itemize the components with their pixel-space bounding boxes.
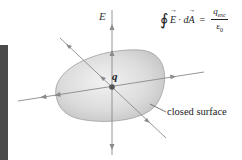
arrow-down-icon [110, 144, 115, 150]
closed-surface-label: closed surface [167, 106, 227, 117]
numerator-subscript: enc [218, 12, 226, 18]
numerator: qenc [211, 6, 228, 20]
vector-A: A [188, 14, 194, 25]
closed-integral-symbol: ∮ [160, 10, 168, 29]
charge-dot [109, 84, 115, 90]
equals-sign: = [200, 14, 206, 25]
arrow-left-icon [40, 94, 47, 99]
gauss-law-formula: ∮ E · d A = qenc ε0 [160, 6, 228, 33]
dot-operator: · [178, 14, 181, 25]
charge-label: q [112, 70, 118, 82]
arrow-right-icon [170, 75, 176, 80]
fraction: qenc ε0 [211, 6, 228, 33]
field-label: E [99, 10, 106, 22]
denominator: ε0 [216, 20, 223, 33]
arrow-diag-icon [144, 118, 150, 123]
arrow-up-icon [110, 24, 115, 30]
vector-E: E [170, 14, 176, 25]
denominator-subscript: 0 [220, 27, 223, 33]
